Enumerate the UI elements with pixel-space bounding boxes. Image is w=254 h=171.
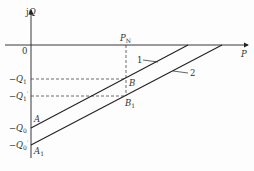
point-a1-label: A1 — [33, 146, 44, 157]
pn-label: PN — [119, 33, 131, 44]
leader-1 — [143, 60, 158, 62]
line-1-label: 1 — [137, 55, 142, 65]
line-1 — [31, 45, 188, 128]
tick-q1-prime: −Q1′ — [9, 90, 29, 102]
tick-q1: −Q1 — [9, 74, 27, 85]
x-axis-label: P — [240, 49, 247, 59]
tick-q0: −Q0 — [9, 123, 27, 134]
tick-q0-prime: −Q0′ — [9, 139, 29, 151]
diagram-svg: jQ P 0 PN −Q1 −Q1′ −Q0 −Q0′ A A1 B B1 1 … — [0, 0, 254, 171]
point-b1-label: B1 — [124, 98, 135, 109]
pq-diagram: jQ P 0 PN −Q1 −Q1′ −Q0 −Q0′ A A1 B B1 1 … — [0, 0, 254, 171]
point-b-label: B — [128, 78, 135, 88]
origin-label: 0 — [22, 46, 27, 56]
line-2-label: 2 — [190, 68, 195, 78]
point-a-label: A — [33, 114, 40, 124]
leader-2 — [173, 71, 188, 73]
y-axis-label: jQ — [25, 7, 36, 17]
line-2 — [31, 45, 222, 145]
